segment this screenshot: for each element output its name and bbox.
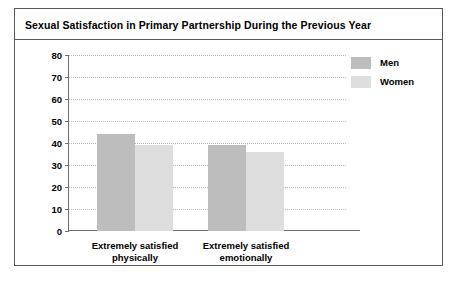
- y-axis-tick-mark: [65, 209, 69, 210]
- bar-men-1: [208, 145, 246, 231]
- y-axis-tick-mark: [65, 187, 69, 188]
- y-axis-tick-mark: [65, 77, 69, 78]
- legend-swatch-men-icon: [351, 57, 371, 69]
- y-axis-tick-mark: [65, 165, 69, 166]
- y-axis-tick-mark: [65, 99, 69, 100]
- gridline: [69, 99, 346, 100]
- gridline: [69, 55, 346, 56]
- y-axis-tick-label: 60: [51, 94, 62, 105]
- x-axis-category-line: emotionally: [176, 252, 316, 264]
- y-axis-tick-label: 0: [57, 226, 62, 237]
- bar-men-0: [97, 134, 135, 231]
- legend-label-men: Men: [380, 57, 399, 68]
- bar-women-1: [246, 152, 284, 231]
- y-axis-tick-label: 70: [51, 72, 62, 83]
- plot-area: 01020304050607080: [68, 55, 346, 231]
- y-axis-tick-mark: [65, 55, 69, 56]
- y-axis-tick-label: 10: [51, 204, 62, 215]
- legend-swatch-women-icon: [351, 76, 371, 88]
- y-axis-tick-mark: [65, 231, 69, 232]
- gridline: [69, 77, 346, 78]
- chart-frame: Sexual Satisfaction in Primary Partnersh…: [14, 8, 443, 266]
- x-axis-category-label: Extremely satisfiedemotionally: [176, 240, 316, 264]
- gridline: [69, 121, 346, 122]
- y-axis-tick-label: 40: [51, 138, 62, 149]
- y-axis-tick-mark: [65, 121, 69, 122]
- chart-title: Sexual Satisfaction in Primary Partnersh…: [25, 19, 371, 31]
- chart-legend: Men Women: [351, 53, 414, 91]
- y-axis-tick-label: 80: [51, 50, 62, 61]
- x-axis-category-line: Extremely satisfied: [176, 240, 316, 252]
- title-divider: [15, 39, 442, 40]
- y-axis-tick-label: 30: [51, 160, 62, 171]
- legend-item-women: Women: [351, 72, 414, 91]
- legend-label-women: Women: [380, 76, 414, 87]
- y-axis-tick-label: 50: [51, 116, 62, 127]
- y-axis-tick-mark: [65, 143, 69, 144]
- y-axis-tick-label: 20: [51, 182, 62, 193]
- bar-women-0: [135, 145, 173, 231]
- legend-item-men: Men: [351, 53, 414, 72]
